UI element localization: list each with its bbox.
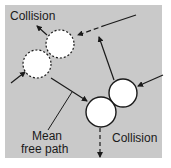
molecule-lower-right-b [86, 97, 116, 127]
mean-free-path-label-line1: Mean [32, 129, 62, 143]
molecule-upper-left-a [46, 30, 74, 58]
mean-free-path-diagram: Collision Collision Mean free path [0, 0, 171, 168]
mean-free-path-label-line2: free path [21, 142, 68, 156]
molecule-upper-left-b [23, 50, 51, 78]
collision-label-top: Collision [10, 9, 55, 23]
collision-label-bottom: Collision [112, 131, 157, 145]
